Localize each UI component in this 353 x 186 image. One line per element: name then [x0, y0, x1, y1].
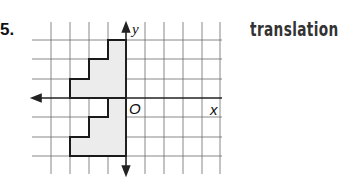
- y-axis-label: y: [130, 21, 139, 37]
- origin-label: O: [129, 100, 141, 117]
- coordinate-graph: y O x: [0, 0, 353, 186]
- y-axis-up-arrow-icon: [123, 23, 130, 32]
- figure-upper: [70, 40, 126, 98]
- figure-lower: [70, 98, 126, 156]
- x-axis-label: x: [209, 101, 218, 118]
- x-axis-left-arrow-icon: [32, 95, 41, 102]
- y-axis-down-arrow-icon: [123, 166, 130, 175]
